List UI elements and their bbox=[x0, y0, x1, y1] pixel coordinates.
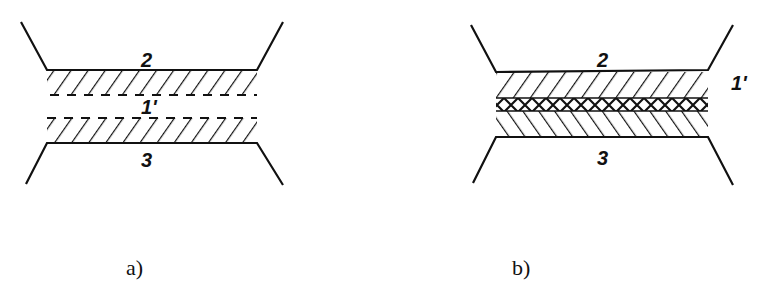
hatched-layer-3-b bbox=[496, 111, 708, 137]
hatched-layer-2-a bbox=[47, 71, 257, 95]
caption-b: b) bbox=[512, 255, 530, 280]
label-2-b: 2 bbox=[596, 49, 608, 71]
label-3-b: 3 bbox=[597, 147, 608, 169]
caption-a: a) bbox=[126, 255, 143, 280]
diagram-figure: 2 1' 3 a) 2 1' 3 b) bbox=[0, 0, 757, 292]
panel-a: 2 1' 3 a) bbox=[21, 22, 283, 280]
hatched-layer-3-a bbox=[47, 118, 257, 143]
hatched-layer-2-b bbox=[496, 72, 708, 98]
label-1prime-b: 1' bbox=[731, 72, 748, 94]
panel-b: 2 1' 3 b) bbox=[471, 25, 748, 280]
label-2-a: 2 bbox=[140, 49, 152, 71]
label-1prime-a: 1' bbox=[141, 96, 158, 118]
lower-boundary-line-a bbox=[26, 143, 283, 185]
crosshatched-interface-1prime-b bbox=[496, 98, 708, 111]
label-3-a: 3 bbox=[141, 149, 152, 171]
